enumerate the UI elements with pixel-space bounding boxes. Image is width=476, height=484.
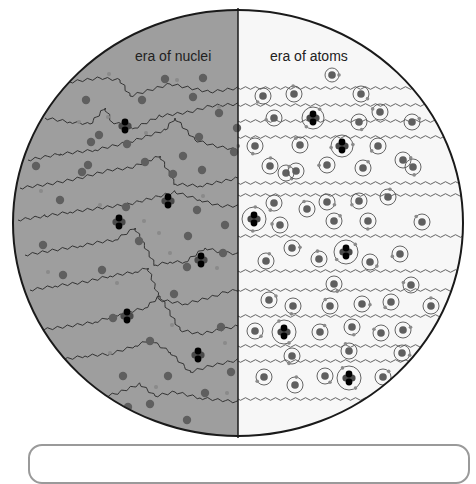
- nucleus: [198, 166, 206, 174]
- electron: [106, 115, 110, 119]
- nucleus: [95, 131, 103, 139]
- electron: [39, 189, 43, 193]
- nucleus: [183, 263, 191, 271]
- electron: [98, 203, 102, 207]
- nucleus: [109, 314, 117, 322]
- electron: [175, 78, 179, 82]
- nucleus: [184, 232, 192, 240]
- nucleus: [230, 148, 238, 156]
- electron: [225, 391, 229, 395]
- electron: [223, 341, 227, 345]
- nucleus: [161, 75, 169, 83]
- nucleus: [98, 266, 106, 274]
- nucleus: [195, 133, 203, 141]
- electron: [201, 194, 205, 198]
- electron: [142, 219, 146, 223]
- nucleus: [119, 372, 127, 380]
- electron: [170, 323, 174, 327]
- electron: [168, 251, 172, 255]
- nucleus: [146, 337, 154, 345]
- nucleus: [215, 109, 223, 117]
- nucleus: [219, 249, 227, 257]
- electron: [115, 281, 119, 285]
- nucleus: [123, 140, 131, 148]
- nucleus: [233, 124, 241, 132]
- nucleus: [82, 96, 90, 104]
- era-of-atoms-panel: [238, 0, 476, 453]
- era-of-atoms-label: era of atoms: [270, 48, 348, 64]
- nucleus: [74, 394, 82, 402]
- nucleus: [221, 221, 229, 229]
- electron: [77, 120, 81, 124]
- nucleus: [84, 161, 92, 169]
- nucleus: [227, 368, 235, 376]
- nucleus: [32, 162, 40, 170]
- hydrogen-atom: [407, 366, 423, 384]
- electron: [144, 131, 148, 135]
- nucleus: [59, 271, 67, 279]
- electron: [107, 72, 111, 76]
- nucleus: [135, 237, 143, 245]
- nucleus: [39, 241, 47, 249]
- nucleus: [87, 138, 95, 146]
- nucleus: [146, 400, 154, 408]
- nucleus: [56, 196, 64, 204]
- nucleus: [217, 323, 225, 331]
- electron: [215, 266, 219, 270]
- nucleus: [122, 203, 130, 211]
- electron: [157, 231, 161, 235]
- electron: [108, 351, 112, 355]
- nucleus: [164, 372, 172, 380]
- era-of-nuclei-label: era of nuclei: [135, 48, 211, 64]
- nucleus: [138, 96, 146, 104]
- nucleus: [199, 74, 207, 82]
- nucleus: [183, 416, 191, 424]
- nucleus: [169, 170, 177, 178]
- nucleus: [141, 158, 149, 166]
- nucleus: [201, 389, 209, 397]
- nucleus: [78, 168, 86, 176]
- electron: [154, 385, 158, 389]
- electron: [96, 428, 100, 432]
- nucleus: [170, 290, 178, 298]
- electron: [46, 270, 50, 274]
- electron: [217, 105, 221, 109]
- nucleus: [189, 93, 197, 101]
- nucleus: [193, 206, 201, 214]
- caption-box: [28, 444, 470, 484]
- nucleus: [179, 152, 187, 160]
